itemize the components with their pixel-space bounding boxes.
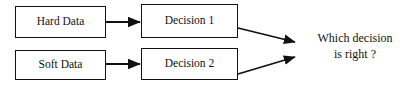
edge-decision-1-to-question xyxy=(238,28,295,42)
diagram-canvas: Hard Data Soft Data Decision 1 Decision … xyxy=(0,0,413,90)
edge-decision-2-to-question xyxy=(238,57,295,74)
question-text: Which decision is right ? xyxy=(300,30,410,62)
node-decision-1[interactable]: Decision 1 xyxy=(141,4,238,38)
node-soft-data[interactable]: Soft Data xyxy=(15,50,106,80)
node-decision-2[interactable]: Decision 2 xyxy=(141,48,238,80)
node-soft-data-label: Soft Data xyxy=(39,59,83,71)
node-hard-data-label: Hard Data xyxy=(37,16,85,28)
node-decision-1-label: Decision 1 xyxy=(165,15,215,27)
question-line-2: is right ? xyxy=(300,46,410,62)
node-decision-2-label: Decision 2 xyxy=(165,58,215,70)
node-hard-data[interactable]: Hard Data xyxy=(15,6,106,38)
question-line-1: Which decision xyxy=(300,30,410,46)
